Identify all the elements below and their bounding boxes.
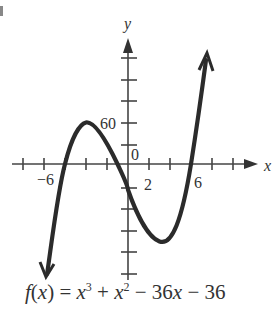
cubic-graph: y x −6 2 6 60 0 bbox=[0, 0, 275, 324]
cubic-curve bbox=[47, 60, 206, 274]
y-axis-arrow-icon bbox=[123, 38, 133, 53]
y-axis-label: y bbox=[122, 15, 132, 33]
origin-label: 0 bbox=[131, 146, 139, 163]
x-axis-label: x bbox=[263, 157, 271, 174]
tick-label-6: 6 bbox=[194, 174, 202, 191]
y-ticks bbox=[121, 58, 137, 274]
tick-label-60: 60 bbox=[100, 115, 116, 132]
function-equation: f(x) = x3 + x2 − 36x − 36 bbox=[25, 280, 226, 305]
tick-label-neg6: −6 bbox=[37, 171, 54, 188]
x-axis-arrow-icon bbox=[244, 159, 258, 169]
tick-label-2: 2 bbox=[144, 176, 152, 193]
